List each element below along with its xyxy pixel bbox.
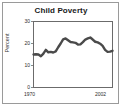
plot-frame xyxy=(34,22,113,88)
chart-figure: Child Poverty Percent 30 20 10 0 1970 20… xyxy=(0,0,122,107)
plot-area xyxy=(0,0,122,107)
